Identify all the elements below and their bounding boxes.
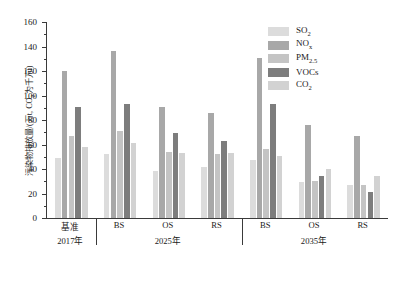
legend-label: NOx	[296, 39, 312, 50]
legend-item[interactable]: SO2	[268, 25, 388, 38]
bar	[305, 125, 311, 218]
bar	[166, 152, 172, 218]
legend-swatch	[268, 54, 289, 63]
y-tick-label: 100	[24, 91, 38, 101]
legend-item[interactable]: VOCs	[268, 66, 388, 79]
legend-label: PM2.5	[296, 53, 317, 64]
bar	[201, 167, 207, 218]
x-era-label: 2025年	[155, 234, 181, 246]
bar	[368, 192, 374, 218]
bar	[82, 147, 88, 218]
y-tick-label: 0	[33, 213, 38, 223]
bar	[62, 71, 68, 218]
legend-swatch	[268, 41, 289, 50]
legend-label: CO2	[296, 80, 312, 91]
legend-item[interactable]: PM2.5	[268, 52, 388, 65]
x-era-label: 2017年	[57, 234, 83, 246]
bar	[228, 153, 234, 218]
bar	[361, 185, 367, 218]
bar	[263, 149, 269, 218]
x-tick-label: BS	[114, 220, 125, 230]
y-tick-label: 40	[28, 164, 37, 174]
bar	[354, 136, 360, 218]
bar	[299, 182, 305, 218]
bar	[104, 154, 110, 218]
y-tick-minor	[44, 59, 47, 60]
y-tick-label: 20	[28, 189, 37, 199]
bar	[131, 143, 137, 218]
x-tick-label: OS	[308, 220, 319, 230]
bar	[153, 171, 159, 218]
legend-swatch	[268, 27, 289, 36]
chart-legend: SO2NOxPM2.5VOCsCO2	[268, 25, 388, 93]
y-tick-major: 80	[42, 120, 46, 121]
emissions-bar-chart: 污染物排放量/(万t, CO2为千万t) 0204060801001201401…	[0, 0, 403, 283]
bar	[270, 104, 276, 218]
x-tick-label: BS	[260, 220, 271, 230]
legend-label: VOCs	[296, 68, 319, 77]
y-tick-major: 160	[42, 22, 46, 23]
y-tick-minor	[44, 181, 47, 182]
bar	[250, 160, 256, 218]
bar	[215, 154, 221, 218]
bar	[173, 133, 179, 218]
bar	[55, 158, 61, 218]
bar	[312, 181, 318, 218]
bar	[208, 113, 214, 218]
bar	[69, 136, 75, 218]
x-tick-label: 基准	[61, 220, 79, 232]
y-tick-major: 100	[42, 96, 46, 97]
y-tick-minor	[44, 108, 47, 109]
bar	[277, 156, 283, 218]
bar	[75, 107, 81, 218]
x-tick-label: RS	[357, 220, 368, 230]
y-tick-major: 140	[42, 47, 46, 48]
y-tick-minor	[44, 132, 47, 133]
x-era-label: 2035年	[301, 234, 327, 246]
legend-swatch	[268, 81, 289, 90]
bar	[326, 169, 332, 218]
bar	[319, 176, 325, 218]
legend-label: SO2	[296, 26, 311, 37]
y-tick-label: 140	[24, 42, 38, 52]
bar	[159, 107, 165, 218]
y-tick-major: 0	[42, 218, 46, 219]
y-tick-label: 60	[28, 140, 37, 150]
x-tick-label: RS	[211, 220, 222, 230]
y-tick-minor	[44, 157, 47, 158]
bar	[124, 104, 130, 218]
y-tick-major: 40	[42, 169, 46, 170]
x-tick-label: OS	[162, 220, 173, 230]
legend-item[interactable]: CO2	[268, 79, 388, 92]
y-tick-label: 120	[24, 66, 38, 76]
y-tick-minor	[44, 206, 47, 207]
bar	[111, 51, 117, 218]
bar	[179, 153, 185, 218]
y-tick-label: 160	[24, 17, 38, 27]
x-axis-labels: 基准BSOSRSBSOSRS2017年2025年2035年	[46, 220, 388, 260]
bar	[347, 185, 353, 218]
bar	[117, 131, 123, 218]
y-tick-major: 60	[42, 145, 46, 146]
bar	[221, 141, 227, 218]
y-tick-major: 120	[42, 71, 46, 72]
y-tick-minor	[44, 83, 47, 84]
bar	[257, 58, 263, 218]
bar	[374, 176, 380, 218]
y-tick-minor	[44, 34, 47, 35]
legend-item[interactable]: NOx	[268, 39, 388, 52]
x-axis-line	[46, 218, 388, 219]
y-tick-major: 20	[42, 194, 46, 195]
y-tick-label: 80	[28, 115, 37, 125]
legend-swatch	[268, 68, 289, 77]
